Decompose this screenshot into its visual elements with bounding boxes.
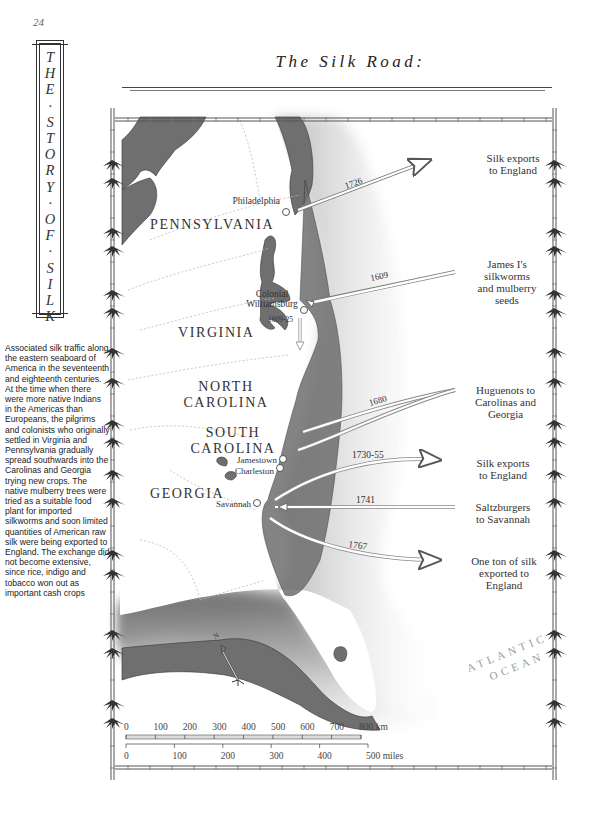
label-pennsylvania: PENNSYLVANIA — [150, 217, 274, 232]
scale-km-tick: 600 — [300, 722, 315, 732]
scale-km-tick: 0 — [124, 722, 129, 732]
label-virginia: VIRGINIA — [178, 325, 255, 340]
label-south-carolina-2: CAROLINA — [190, 441, 275, 456]
note-1609: James I'ssilkworms and mulberryseeds — [462, 258, 552, 306]
city-marker-williamsburg — [301, 307, 308, 314]
year-1609-25: 1609-25 — [268, 315, 293, 324]
scale-miles-tick: 400 — [318, 751, 333, 761]
scale-km-tick: 300 — [212, 722, 227, 732]
label-philadelphia: Philadelphia — [233, 196, 281, 206]
label-south-carolina-1: SOUTH — [206, 425, 261, 440]
scale-km-tick: 500 — [271, 722, 286, 732]
label-georgia: GEORGIA — [150, 486, 224, 501]
scale-km-tick: 800 km — [359, 722, 388, 732]
scale-km-tick: 700 — [330, 722, 345, 732]
city-marker-jamestown — [280, 456, 287, 463]
scale-km-tick: 100 — [153, 722, 168, 732]
scale-bar-miles: 0100200300400500 miles — [124, 744, 404, 761]
ocean-label: ATLANTIC OCEAN — [465, 631, 555, 689]
city-marker-philadelphia — [283, 209, 290, 216]
note-1730-55: Silk exportsto England — [458, 457, 548, 481]
year-1730-55: 1730-55 — [352, 450, 384, 460]
year-1741: 1741 — [356, 495, 375, 505]
note-1767: One ton of silkexported to England — [454, 555, 554, 591]
scale-km-tick: 200 — [183, 722, 198, 732]
label-north-carolina-2: CAROLINA — [183, 395, 268, 410]
city-marker-charleston — [277, 465, 284, 472]
scale-miles-tick: 100 — [172, 751, 187, 761]
note-1680: Huguenots toCarolinas and Georgia — [458, 384, 553, 420]
scale-miles-tick: 200 — [221, 751, 236, 761]
label-charleston: Charleston — [235, 466, 274, 476]
note-1726: Silk exportsto England — [468, 152, 558, 176]
label-savannah: Savannah — [216, 499, 251, 509]
lake-okeechobee — [334, 647, 347, 662]
label-williamsburg-1: Colonial — [256, 289, 289, 299]
label-jamestown: Jamestown — [237, 455, 277, 465]
label-north-carolina-1: NORTH — [198, 379, 253, 394]
scale-miles-tick: 300 — [269, 751, 284, 761]
scale-miles-tick: 0 — [124, 751, 129, 761]
scale-km-tick: 400 — [242, 722, 257, 732]
note-1741: Saltzburgersto Savannah — [458, 501, 548, 525]
label-williamsburg-2: Williamsburg — [246, 299, 298, 309]
city-marker-savannah — [254, 500, 261, 507]
scale-miles-tick: 500 miles — [366, 751, 404, 761]
